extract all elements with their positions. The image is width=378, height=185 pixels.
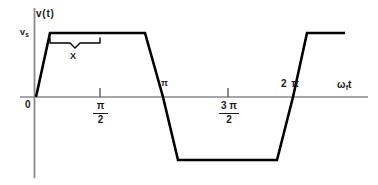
brace-label: X [70, 52, 76, 61]
waveform-plot [0, 0, 378, 185]
fraction-denominator: 2 [92, 114, 109, 126]
fraction-denominator: 2 [218, 114, 240, 126]
tick-label-pi: π [161, 79, 168, 88]
y-level-subscript: s [25, 31, 29, 38]
x-axis-label: ωft [337, 80, 352, 91]
y-level-label: vs [20, 28, 29, 38]
fraction-numerator: 3 π [218, 101, 240, 113]
tick-label-3pi-over-2: 3 π 2 [218, 101, 240, 126]
origin-label: 0 [25, 100, 31, 110]
x-axis-variable: t [348, 79, 352, 90]
tick-label-2pi: 2 π [281, 79, 300, 89]
interval-brace [50, 38, 100, 48]
tick-label-pi-over-2: π 2 [92, 101, 109, 126]
waveform-figure: v(t) vs 0 π 2 π ωft X π 2 3 π 2 [0, 0, 378, 185]
fraction-numerator: π [92, 101, 109, 113]
x-axis-omega: ω [337, 79, 346, 90]
y-axis-label: v(t) [36, 9, 55, 19]
